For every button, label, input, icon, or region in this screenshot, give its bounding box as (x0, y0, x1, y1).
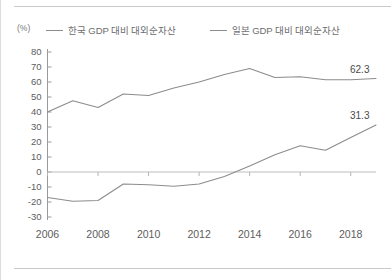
japan-end-value: 62.3 (350, 64, 369, 75)
chart-svg (0, 0, 391, 280)
series-line-japan (48, 69, 377, 113)
series-line-korea (48, 125, 377, 201)
korea-end-value: 31.3 (350, 110, 369, 121)
plot-area: 80706050403020100-10-20-3020062008201020… (0, 0, 391, 280)
chart-figure: (%) 한국 GDP 대비 대외순자산 일본 GDP 대비 대외순자산 8070… (0, 0, 391, 280)
